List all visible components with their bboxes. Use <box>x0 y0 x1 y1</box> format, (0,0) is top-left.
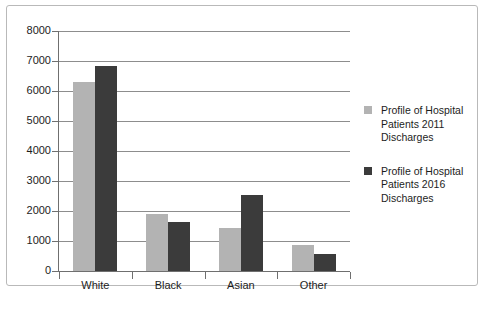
x-axis-tick-label: Black <box>132 280 205 291</box>
y-axis-tick <box>52 91 59 92</box>
plot-area <box>59 31 350 271</box>
y-axis-tick <box>52 211 59 212</box>
bar <box>314 254 336 271</box>
y-axis-tick <box>52 271 59 272</box>
legend-item: Profile of HospitalPatients 2011Discharg… <box>364 104 476 145</box>
y-axis-tick <box>52 61 59 62</box>
x-axis-tick-label: Other <box>277 280 350 291</box>
chart-container: 800070006000500040003000200010000 WhiteB… <box>6 5 478 286</box>
y-axis-tick-label: 6000 <box>7 85 51 96</box>
y-axis-tick-label: 0 <box>7 265 51 276</box>
legend-swatch-icon <box>364 167 372 175</box>
chart-legend: Profile of HospitalPatients 2011Discharg… <box>364 104 476 225</box>
y-axis-tick <box>52 241 59 242</box>
legend-label: Profile of HospitalPatients 2011Discharg… <box>381 104 476 145</box>
x-axis-tick <box>59 272 60 279</box>
bar <box>241 195 263 271</box>
y-axis-labels: 800070006000500040003000200010000 <box>7 6 51 287</box>
y-axis-tick-label: 2000 <box>7 205 51 216</box>
y-axis-tick <box>52 31 59 32</box>
y-axis-tick-label: 8000 <box>7 25 51 36</box>
bar <box>73 82 95 271</box>
x-axis-tick <box>205 272 206 279</box>
x-axis-tick-label: Asian <box>205 280 278 291</box>
y-axis-tick <box>52 121 59 122</box>
bar-group <box>277 31 350 271</box>
legend-item: Profile of HospitalPatients 2016Discharg… <box>364 165 476 206</box>
bar <box>168 222 190 271</box>
x-axis-tick <box>277 272 278 279</box>
bar-group <box>205 31 278 271</box>
y-axis-tick-label: 1000 <box>7 235 51 246</box>
y-axis-tick <box>52 181 59 182</box>
bar <box>95 66 117 271</box>
bar <box>292 245 314 271</box>
y-axis-tick-label: 4000 <box>7 145 51 156</box>
y-axis-tick-label: 3000 <box>7 175 51 186</box>
bar-group <box>132 31 205 271</box>
legend-swatch-icon <box>364 106 372 114</box>
bar-group <box>59 31 132 271</box>
bar <box>219 228 241 272</box>
bar <box>146 214 168 271</box>
x-axis-tick-label: White <box>59 280 132 291</box>
legend-label: Profile of HospitalPatients 2016Discharg… <box>381 165 476 206</box>
x-axis-tick <box>132 272 133 279</box>
y-axis-tick-label: 7000 <box>7 55 51 66</box>
y-axis-tick-label: 5000 <box>7 115 51 126</box>
y-axis-tick <box>52 151 59 152</box>
x-axis-tick <box>350 272 351 279</box>
